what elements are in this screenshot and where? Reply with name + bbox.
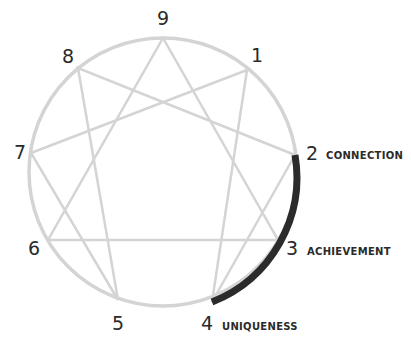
point-2-number: 2	[306, 142, 318, 164]
point-3-label: ACHIEVEMENT	[307, 246, 391, 257]
point-3-number: 3	[286, 237, 298, 259]
point-2-label: CONNECTION	[326, 150, 403, 161]
point-1-number: 1	[251, 44, 263, 66]
triangle-9-3-6	[48, 38, 278, 240]
point-4-label: UNIQUENESS	[222, 321, 298, 332]
point-9-number: 9	[157, 7, 169, 29]
point-8-number: 8	[62, 45, 74, 67]
enneagram-diagram: 9 1 2 3 4 5 6 7 8 CONNECTION ACHIEVEMENT…	[0, 0, 411, 348]
point-5-number: 5	[112, 312, 124, 334]
point-6-number: 6	[28, 237, 40, 259]
point-4-number: 4	[201, 312, 213, 334]
point-7-number: 7	[14, 141, 26, 163]
enneagram-circle	[29, 38, 297, 306]
